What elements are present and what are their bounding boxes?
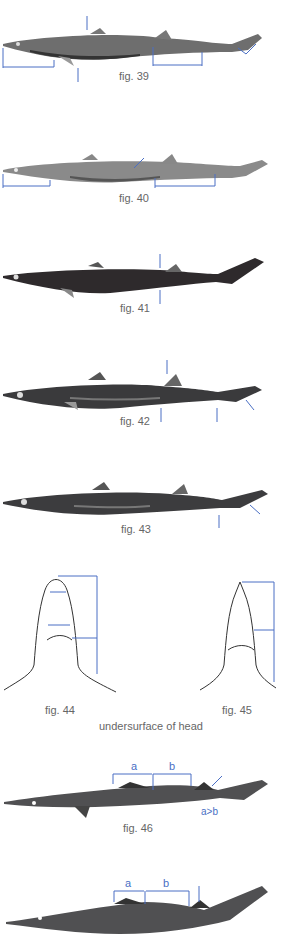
dimension-label-a: a (131, 760, 137, 772)
dimension-label-b: b (169, 760, 175, 772)
dimension-label-a: a (125, 877, 131, 889)
section-caption: undersurface of head (99, 720, 203, 732)
figure-46: a b a>b fig. 46 (0, 760, 281, 860)
figure-39: fig. 39 (0, 0, 281, 100)
comparison-note: a>b (201, 806, 218, 817)
figure-caption: fig. 46 (123, 822, 153, 834)
figure-caption: fig. 39 (119, 70, 149, 82)
figure-caption: fig. 43 (121, 523, 151, 535)
figure-47: a b (0, 880, 281, 934)
figure-caption: fig. 45 (222, 704, 252, 716)
figure-43: fig. 43 (0, 460, 281, 560)
figure-41: fig. 41 (0, 240, 281, 340)
figure-caption: fig. 41 (120, 302, 150, 314)
shark-illustration-39 (0, 0, 281, 100)
shark-illustration-47 (0, 880, 281, 934)
figure-caption: fig. 42 (120, 415, 150, 427)
figure-42: fig. 42 (0, 350, 281, 450)
shark-illustration-46 (0, 760, 281, 860)
shark-illustration-41 (0, 240, 281, 340)
figure-caption: fig. 40 (119, 192, 149, 204)
figure-44-45-heads: fig. 44 fig. 45 undersurface of head (0, 570, 281, 730)
figure-40: fig. 40 (0, 120, 281, 220)
shark-illustration-42 (0, 350, 281, 450)
figure-caption: fig. 44 (45, 704, 75, 716)
dimension-label-b: b (163, 877, 169, 889)
shark-illustration-40 (0, 120, 281, 220)
shark-illustration-43 (0, 460, 281, 560)
